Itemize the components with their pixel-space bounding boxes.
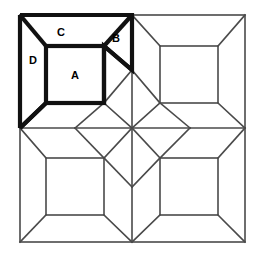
quilt-block-figure: A B C D bbox=[0, 0, 260, 255]
piece-label-c: C bbox=[57, 26, 65, 38]
piece-label-b: B bbox=[112, 32, 120, 44]
quilt-block-diagram: A B C D bbox=[0, 0, 260, 255]
piece-label-d: D bbox=[29, 54, 37, 66]
piece-label-a: A bbox=[71, 69, 79, 81]
